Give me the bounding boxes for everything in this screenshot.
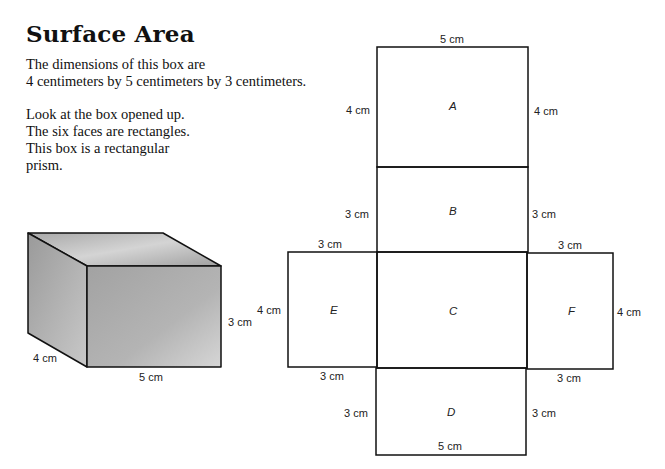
net-label-a-left: 4 cm — [346, 104, 370, 116]
face-label-a: A — [449, 100, 457, 112]
box-height-label: 3 cm — [228, 316, 252, 328]
box-front-face — [87, 266, 221, 367]
net-label-b-left: 3 cm — [345, 208, 369, 220]
box-width-label: 5 cm — [139, 371, 163, 383]
face-label-c: C — [449, 305, 457, 317]
face-label-f: F — [568, 305, 575, 317]
net-label-d-right: 3 cm — [532, 407, 556, 419]
face-label-e: E — [330, 304, 338, 316]
net-label-a-top: 5 cm — [440, 33, 464, 45]
box-3d — [28, 233, 221, 367]
net-label-d-left: 3 cm — [344, 407, 368, 419]
net-label-e-bottom: 3 cm — [320, 370, 344, 382]
net-label-f-top: 3 cm — [558, 239, 582, 251]
net-label-e-top: 3 cm — [318, 238, 342, 250]
net-label-f-right: 4 cm — [617, 306, 641, 318]
net-label-f-bottom: 3 cm — [557, 372, 581, 384]
net-label-b-right: 3 cm — [532, 208, 556, 220]
box-depth-label: 4 cm — [33, 352, 57, 364]
face-label-d: D — [447, 406, 455, 418]
box-illustration — [0, 0, 665, 469]
net-label-d-bottom: 5 cm — [438, 440, 462, 452]
face-label-b: B — [449, 205, 457, 217]
net-label-e-left: 4 cm — [257, 304, 281, 316]
net-label-a-right: 4 cm — [534, 105, 558, 117]
